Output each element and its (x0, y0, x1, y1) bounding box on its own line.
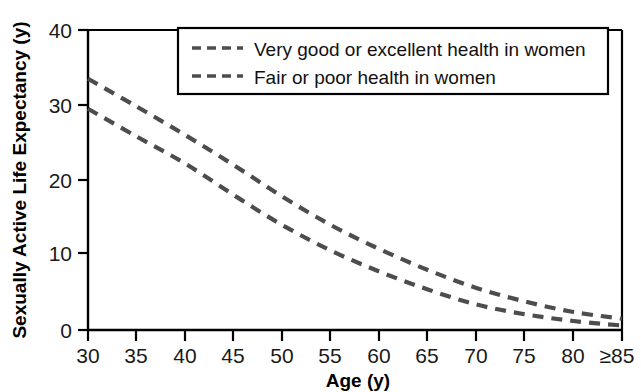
y-tick-label-40: 40 (49, 19, 72, 42)
x-axis-title: Age (y) (326, 370, 390, 391)
x-axis-tick-labels: 30 35 40 45 50 55 60 65 70 75 80 ≥85 (76, 344, 634, 367)
x-tick-label-75: 75 (512, 344, 535, 367)
x-tick-label-30: 30 (76, 344, 99, 367)
y-tick-label-0: 0 (60, 319, 72, 342)
line-chart: 0 10 20 30 40 30 35 40 45 50 (0, 0, 641, 392)
y-tick-label-10: 10 (49, 242, 72, 265)
y-tick-label-20: 20 (49, 169, 72, 192)
y-axis-title: Sexually Active Life Expectancy (y) (9, 21, 30, 338)
series-line-very-good-or-excellent-health (88, 79, 622, 319)
y-tick-label-30: 30 (49, 94, 72, 117)
x-tick-label-65: 65 (415, 344, 438, 367)
x-tick-label-40: 40 (173, 344, 196, 367)
legend-label-very-good-or-excellent-health: Very good or excellent health in women (254, 39, 586, 60)
chart-figure: 0 10 20 30 40 30 35 40 45 50 (0, 0, 641, 392)
x-tick-label-85: ≥85 (600, 344, 635, 367)
series-group (88, 79, 622, 326)
x-tick-label-60: 60 (367, 344, 390, 367)
chart-legend: Very good or excellent health in women F… (178, 28, 608, 94)
x-tick-label-45: 45 (221, 344, 244, 367)
x-tick-label-35: 35 (124, 344, 147, 367)
x-tick-label-70: 70 (464, 344, 487, 367)
x-axis-ticks (88, 330, 622, 341)
x-tick-label-80: 80 (561, 344, 584, 367)
x-tick-label-55: 55 (318, 344, 341, 367)
series-line-fair-or-poor-health (88, 109, 622, 326)
y-axis-tick-labels: 0 10 20 30 40 (49, 19, 72, 342)
y-axis-ticks (78, 30, 88, 330)
legend-label-fair-or-poor-health: Fair or poor health in women (254, 67, 496, 88)
x-tick-label-50: 50 (270, 344, 293, 367)
